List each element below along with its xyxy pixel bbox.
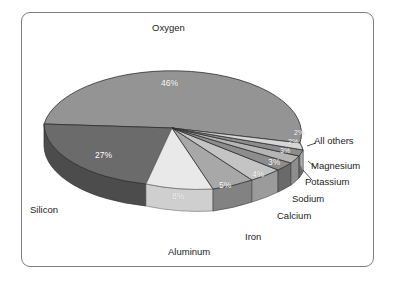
callout-label-oxygen: Oxygen xyxy=(152,22,185,33)
callout-label-silicon: Silicon xyxy=(30,204,58,215)
callout-label-allothers: All others xyxy=(314,135,354,146)
slice-value-potassium: 3% xyxy=(280,147,290,154)
slice-value-allothers: 2% xyxy=(294,129,304,136)
callout-label-magnesium: Magnesium xyxy=(311,160,360,171)
slice-value-silicon: 27% xyxy=(95,150,112,160)
slice-value-sodium: 3% xyxy=(268,157,280,167)
callout-label-sodium: Sodium xyxy=(292,193,324,204)
callout-label-potassium: Potassium xyxy=(305,176,349,187)
pie-chart: 46% 27% 8% 5% 4% 3% 3% 2% 2% Oxygen Sili… xyxy=(0,0,395,282)
slice-value-aluminum: 8% xyxy=(172,191,184,201)
slice-value-iron: 5% xyxy=(219,180,231,190)
callout-label-calcium: Calcium xyxy=(277,210,311,221)
callout-label-aluminum: Aluminum xyxy=(168,246,210,257)
slice-value-magnesium: 2% xyxy=(288,138,298,145)
slice-value-oxygen: 46% xyxy=(161,78,178,88)
callout-label-iron: Iron xyxy=(245,231,261,242)
slice-value-calcium: 4% xyxy=(252,169,264,179)
